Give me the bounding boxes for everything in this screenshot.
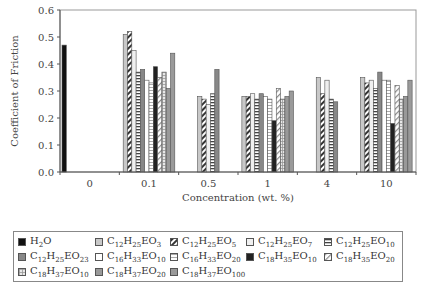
legend-item: C16H33EO10 bbox=[95, 250, 166, 264]
legend-item: C12H25EO5 bbox=[170, 235, 236, 249]
bar-c12h25eo10-4 bbox=[329, 99, 333, 172]
bar-c12h25eo23-0.5 bbox=[215, 69, 219, 172]
legend-label: C12H25EO7 bbox=[258, 235, 312, 249]
bar-c16h33eo10-0.1 bbox=[145, 80, 149, 172]
legend-swatch bbox=[324, 238, 332, 246]
legend-label: C12H25EO3 bbox=[107, 235, 161, 249]
legend-item: H2O bbox=[18, 235, 51, 249]
legend-label: C16H33EO10 bbox=[107, 250, 166, 264]
legend-label: C12H25EO5 bbox=[182, 235, 236, 249]
bar-c12h25eo3-4 bbox=[316, 78, 320, 173]
legend-label: C12H25EO10 bbox=[336, 235, 395, 249]
legend-swatch bbox=[95, 268, 103, 276]
bar-c18h37eo10-1 bbox=[281, 99, 285, 172]
bar-c16h33eo20-10 bbox=[386, 80, 390, 172]
bar-c12h25eo23-0.1 bbox=[140, 69, 144, 172]
legend-label: C18H37EO10 bbox=[30, 265, 89, 279]
bar-c18h37eo100-10 bbox=[408, 80, 412, 172]
bar-c18h35eo20-0.1 bbox=[158, 78, 162, 173]
y-tick-label: 0.4 bbox=[38, 59, 54, 70]
bar-c12h25eo3-0.1 bbox=[123, 34, 127, 172]
bar-c18h37eo20-0.1 bbox=[166, 88, 170, 172]
bar-c12h25eo5-0.5 bbox=[202, 99, 206, 172]
legend-swatch bbox=[95, 238, 103, 246]
x-tick-label: 0.1 bbox=[141, 178, 157, 189]
bar-c12h25eo5-0.1 bbox=[128, 32, 132, 172]
legend-item: C18H37EO100 bbox=[170, 265, 245, 279]
y-tick-label: 0.5 bbox=[38, 32, 54, 43]
bar-c12h25eo5-4 bbox=[321, 94, 325, 172]
bar-c16h33eo20-0.1 bbox=[149, 83, 153, 172]
y-tick-label: 0.6 bbox=[38, 5, 54, 16]
bar-c12h25eo3-1 bbox=[242, 96, 246, 172]
bar-c18h37eo100-0.1 bbox=[171, 53, 175, 172]
legend-label: C18H37EO20 bbox=[107, 265, 166, 279]
legend-item: C12H25EO3 bbox=[95, 235, 161, 249]
legend-item: C18H35EO20 bbox=[324, 250, 395, 264]
legend-label: C18H35EO20 bbox=[336, 250, 395, 264]
bar-c12h25eo3-10 bbox=[361, 78, 365, 173]
bar-c18h35eo20-10 bbox=[395, 86, 399, 172]
bar-c12h25eo5-10 bbox=[365, 83, 369, 172]
legend-item: C16H33EO20 bbox=[170, 250, 241, 264]
bar-c18h37eo100-1 bbox=[289, 91, 293, 172]
bar-c12h25eo5-1 bbox=[246, 96, 250, 172]
x-tick-label: 0.5 bbox=[200, 178, 216, 189]
bar-c12h25eo7-4 bbox=[325, 80, 329, 172]
bar-c12h25eo23-10 bbox=[378, 72, 382, 172]
x-axis-label: Concentration (wt. %) bbox=[182, 192, 294, 203]
bar-c12h25eo7-0.1 bbox=[132, 51, 136, 173]
y-tick-label: 0.3 bbox=[38, 86, 54, 97]
x-tick-label: 0 bbox=[86, 178, 92, 189]
y-tick-label: 0.2 bbox=[38, 113, 54, 124]
bar-c18h35eo10-0.1 bbox=[153, 67, 157, 172]
bar-c12h25eo7-0.5 bbox=[206, 105, 210, 173]
bar-c12h25eo10-0.1 bbox=[136, 72, 140, 172]
y-tick-label: 0.0 bbox=[38, 167, 54, 178]
legend-swatch bbox=[18, 268, 26, 276]
legend-item: C18H37EO10 bbox=[18, 265, 89, 279]
legend-swatch bbox=[246, 253, 254, 261]
bar-c12h25eo10-10 bbox=[373, 88, 377, 172]
y-tick-label: 0.1 bbox=[38, 140, 54, 151]
coefficient-of-friction-chart: 0.00.10.20.30.40.50.6Coefficient of Fric… bbox=[0, 0, 428, 230]
legend-swatch bbox=[170, 253, 178, 261]
bar-c16h33eo20-1 bbox=[268, 99, 272, 172]
legend-label: C18H37EO100 bbox=[182, 265, 245, 279]
legend-swatch bbox=[170, 268, 178, 276]
bar-c18h35eo20-1 bbox=[276, 88, 280, 172]
legend-swatch bbox=[95, 253, 103, 261]
bar-c18h35eo10-10 bbox=[391, 123, 395, 172]
legend-label: C12H25EO23 bbox=[30, 250, 89, 264]
bar-c18h37eo10-0.1 bbox=[162, 72, 166, 172]
legend-swatch bbox=[18, 253, 26, 261]
x-tick-label: 10 bbox=[380, 178, 393, 189]
bar-c12h25eo10-1 bbox=[255, 99, 259, 172]
bar-c18h35eo10-1 bbox=[272, 121, 276, 172]
bar-series bbox=[62, 32, 412, 172]
x-tick-label: 1 bbox=[264, 178, 270, 189]
x-tick-label: 4 bbox=[324, 178, 330, 189]
y-axis-label: Coefficient of Friction bbox=[9, 35, 20, 147]
bar-c12h25eo7-1 bbox=[250, 94, 254, 172]
bar-c16h33eo10-1 bbox=[263, 96, 267, 172]
legend-item: C18H35EO10 bbox=[246, 250, 317, 264]
bar-c12h25eo10-0.5 bbox=[210, 94, 214, 172]
legend-label: C16H33EO20 bbox=[182, 250, 241, 264]
legend-swatch bbox=[246, 238, 254, 246]
legend-item: C12H25EO7 bbox=[246, 235, 312, 249]
bar-c18h37eo20-10 bbox=[404, 96, 408, 172]
legend-swatch bbox=[170, 238, 178, 246]
legend-item: C18H37EO20 bbox=[95, 265, 166, 279]
legend-item: C12H25EO10 bbox=[324, 235, 395, 249]
bar-c12h25eo23-4 bbox=[333, 102, 337, 172]
bar-c18h37eo10-10 bbox=[399, 99, 403, 172]
bar-c18h37eo20-1 bbox=[285, 96, 289, 172]
legend-swatch bbox=[324, 253, 332, 261]
legend-item: C12H25EO23 bbox=[18, 250, 89, 264]
legend-swatch bbox=[18, 238, 26, 246]
bar-c12h25eo7-10 bbox=[369, 80, 373, 172]
legend-label: C18H35EO10 bbox=[258, 250, 317, 264]
legend-label: H2O bbox=[30, 235, 51, 249]
bar-c12h25eo3-0.5 bbox=[198, 96, 202, 172]
